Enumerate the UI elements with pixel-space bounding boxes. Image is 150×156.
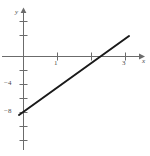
data-line: [19, 36, 129, 115]
y-tick-label-minus-8: −8: [4, 108, 11, 115]
x-axis-label: x: [142, 58, 145, 65]
y-axis-label: y: [15, 9, 18, 16]
y-axis: [21, 8, 27, 151]
y-tick-label-minus-4: −4: [4, 80, 11, 87]
x-tick-label-3: 3: [122, 60, 126, 67]
coordinate-plane: [0, 0, 150, 156]
graph-figure: 1 3 −4 −8 x y: [0, 0, 150, 156]
x-tick-label-1: 1: [54, 60, 58, 67]
